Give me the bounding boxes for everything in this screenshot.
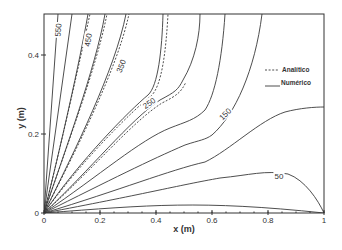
- svg-text:50: 50: [275, 172, 284, 181]
- contour-label: 450: [82, 31, 94, 48]
- contour-label: 50: [273, 172, 284, 182]
- analytic-contour-line: [44, 14, 168, 213]
- svg-text:250: 250: [141, 96, 158, 111]
- y-tick-label: 0.2: [28, 130, 40, 139]
- x-tick-label: 0.8: [262, 216, 274, 225]
- y-axis-label: y (m): [16, 107, 26, 129]
- legend-analitico: Analítico: [282, 66, 309, 73]
- legend: Analítico Numérico: [265, 66, 311, 86]
- legend-numerico: Numérico: [281, 79, 311, 86]
- contour-label: 350: [114, 57, 129, 75]
- x-tick-label: 0: [42, 216, 47, 225]
- y-tick-label: 0.4: [28, 51, 40, 60]
- contour-chart: 55045035025015050 00.20.40.60.81 00.20.4…: [0, 0, 342, 250]
- x-axis-ticks: 00.20.40.60.81: [42, 210, 327, 225]
- y-tick-label: 0: [35, 209, 40, 218]
- x-tick-label: 0.2: [94, 216, 106, 225]
- y-axis-ticks: 00.20.4: [28, 51, 46, 218]
- x-axis-label: x (m): [173, 224, 195, 234]
- contour-label: 550: [53, 22, 64, 38]
- contour-label: 250: [140, 95, 158, 112]
- x-tick-label: 0.4: [150, 216, 162, 225]
- svg-text:550: 550: [54, 23, 64, 37]
- contour-label: 150: [216, 105, 234, 123]
- svg-text:450: 450: [83, 32, 94, 47]
- numeric-contour-line: [44, 14, 225, 213]
- x-tick-label: 0.6: [206, 216, 218, 225]
- x-tick-label: 1: [322, 216, 327, 225]
- analytic-contour-line: [44, 82, 186, 213]
